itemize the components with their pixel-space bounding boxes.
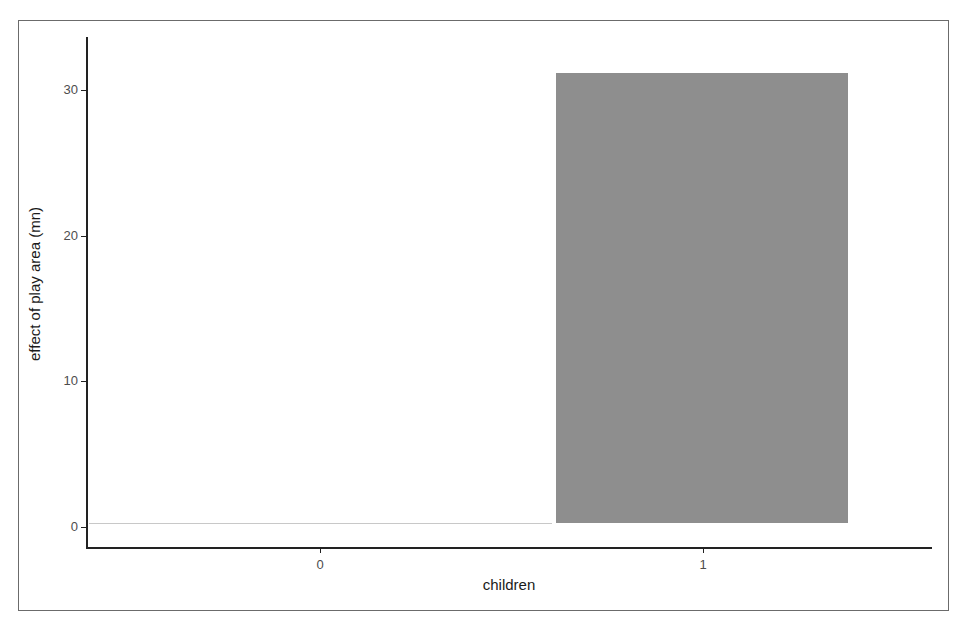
y-tick-label: 20 bbox=[38, 228, 78, 243]
bar-category-1 bbox=[556, 73, 848, 523]
bar-category-0 bbox=[89, 523, 552, 524]
y-axis-line bbox=[86, 37, 88, 548]
y-tick-20 bbox=[81, 236, 86, 237]
x-axis-title: children bbox=[483, 576, 536, 593]
y-tick-30 bbox=[81, 90, 86, 91]
y-tick-label: 30 bbox=[38, 82, 78, 97]
x-tick-label: 0 bbox=[300, 557, 340, 572]
y-axis-title: effect of play area (mn) bbox=[26, 207, 43, 361]
y-tick-10 bbox=[81, 381, 86, 382]
y-tick-label: 0 bbox=[38, 519, 78, 534]
x-axis-line bbox=[86, 547, 932, 549]
x-tick-1 bbox=[703, 548, 704, 553]
y-tick-label: 10 bbox=[38, 373, 78, 388]
x-tick-0 bbox=[320, 548, 321, 553]
y-tick-0 bbox=[81, 527, 86, 528]
x-tick-label: 1 bbox=[683, 557, 723, 572]
